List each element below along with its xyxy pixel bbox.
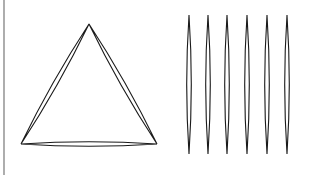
needle-lens-6 xyxy=(285,15,290,154)
triangle-right-edge-lens xyxy=(89,24,157,144)
needle-lens-2 xyxy=(206,15,211,154)
triangle-left-edge-lens xyxy=(21,24,89,144)
needle-lens-5 xyxy=(265,15,270,154)
needle-lens-4 xyxy=(245,15,250,154)
needle-lens-1 xyxy=(187,15,192,154)
vertical-needle-lenses xyxy=(187,15,290,154)
needle-lens-3 xyxy=(225,15,230,154)
diagram-canvas xyxy=(0,0,320,175)
triangle-base-lens xyxy=(21,142,157,146)
triangle-of-lenses xyxy=(21,24,157,146)
